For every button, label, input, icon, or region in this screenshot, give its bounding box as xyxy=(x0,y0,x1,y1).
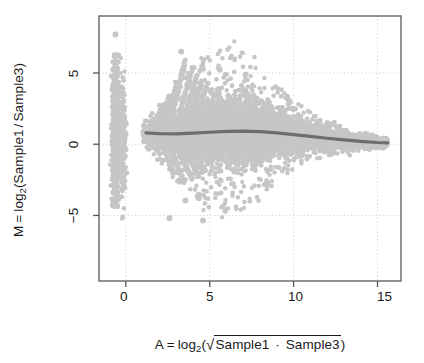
data-point xyxy=(264,187,269,192)
data-point xyxy=(123,145,127,149)
data-point xyxy=(236,171,241,176)
data-point xyxy=(262,103,266,107)
data-point xyxy=(207,71,212,76)
data-point xyxy=(255,195,260,200)
data-point xyxy=(202,113,206,117)
data-point xyxy=(290,146,294,150)
data-point xyxy=(267,173,272,178)
data-point xyxy=(226,206,231,211)
data-point xyxy=(229,76,234,81)
data-point xyxy=(150,111,155,116)
data-point xyxy=(201,193,206,198)
data-point xyxy=(319,141,323,145)
data-point xyxy=(205,135,209,139)
data-point xyxy=(262,137,266,141)
data-point xyxy=(253,66,257,70)
data-point xyxy=(264,167,268,171)
data-point xyxy=(234,155,238,159)
data-point xyxy=(328,145,333,150)
data-point xyxy=(163,150,168,155)
data-point xyxy=(228,177,233,182)
data-point xyxy=(281,145,285,149)
data-point xyxy=(118,71,122,75)
data-point xyxy=(223,72,228,77)
data-point xyxy=(167,167,172,172)
data-point xyxy=(288,151,293,156)
data-point xyxy=(257,86,261,90)
data-point xyxy=(210,156,214,160)
data-point xyxy=(153,118,158,123)
data-point xyxy=(196,195,202,201)
data-point xyxy=(204,181,208,185)
data-point xyxy=(253,120,257,124)
data-point xyxy=(176,94,181,99)
data-point xyxy=(118,126,122,130)
data-point xyxy=(218,49,223,54)
data-point xyxy=(207,116,211,120)
data-point xyxy=(257,184,262,189)
data-point xyxy=(281,125,285,129)
data-point xyxy=(217,169,221,173)
data-point xyxy=(184,102,189,107)
data-point xyxy=(345,143,350,148)
data-point xyxy=(237,104,241,108)
data-point xyxy=(212,152,216,156)
data-point xyxy=(114,88,118,92)
data-point xyxy=(188,187,193,192)
data-point xyxy=(252,150,256,154)
data-point xyxy=(112,93,116,97)
data-point xyxy=(309,127,313,131)
data-point xyxy=(114,196,118,200)
data-point xyxy=(264,116,268,120)
data-point xyxy=(159,146,164,151)
data-point xyxy=(219,163,223,167)
data-point xyxy=(122,69,126,73)
data-point xyxy=(224,88,228,92)
data-point xyxy=(275,90,280,95)
data-point xyxy=(110,134,114,138)
data-point xyxy=(184,177,189,182)
data-point xyxy=(172,98,177,103)
data-point xyxy=(209,100,213,104)
data-point xyxy=(206,81,211,86)
data-point xyxy=(121,92,125,96)
data-point xyxy=(237,160,241,164)
data-point xyxy=(252,84,257,89)
data-point xyxy=(121,173,125,177)
data-point xyxy=(217,90,222,95)
data-point xyxy=(287,158,292,163)
data-point xyxy=(266,106,270,110)
data-point xyxy=(121,215,125,219)
data-point xyxy=(217,182,222,187)
ma-plot-figure: M = log 2 ( Sample1 / Sample3 ) A = log … xyxy=(0,0,424,363)
data-point xyxy=(197,126,201,130)
data-point xyxy=(204,189,209,194)
data-point xyxy=(211,147,215,151)
data-point xyxy=(219,178,224,183)
data-point xyxy=(312,114,317,119)
data-point xyxy=(248,74,252,78)
data-point xyxy=(114,132,118,136)
data-point xyxy=(282,91,287,96)
data-point xyxy=(149,119,154,124)
data-point xyxy=(230,191,235,196)
data-point xyxy=(226,100,230,104)
data-point xyxy=(122,178,126,182)
data-point xyxy=(119,56,123,60)
data-point xyxy=(111,77,115,81)
data-point xyxy=(220,215,224,219)
data-point xyxy=(227,142,231,146)
data-point xyxy=(223,186,228,191)
data-point xyxy=(205,96,209,100)
data-point xyxy=(271,93,276,98)
data-point xyxy=(326,121,331,126)
data-point xyxy=(299,158,304,163)
data-point xyxy=(157,111,162,116)
data-point xyxy=(318,126,323,131)
scatter-points xyxy=(108,32,390,224)
data-point xyxy=(113,67,117,71)
data-point xyxy=(111,189,115,193)
data-point xyxy=(119,160,123,164)
data-point xyxy=(205,55,210,60)
data-point xyxy=(239,83,244,88)
